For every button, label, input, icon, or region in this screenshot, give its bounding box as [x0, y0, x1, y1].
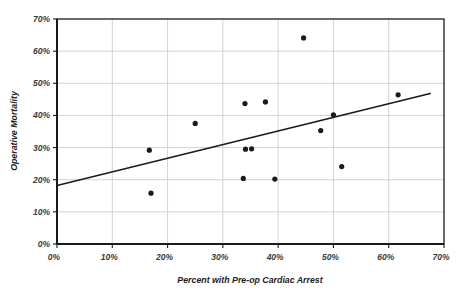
y-tick-label: 20% — [32, 175, 50, 185]
data-point — [396, 92, 401, 97]
data-point — [263, 99, 268, 104]
x-tick-label: 20% — [155, 252, 173, 262]
data-point — [249, 146, 254, 151]
grid-lines — [57, 19, 444, 244]
data-point — [242, 101, 247, 106]
trendline-path — [57, 94, 430, 186]
data-point — [147, 148, 152, 153]
data-point — [331, 112, 336, 117]
data-point — [241, 176, 246, 181]
x-tick-label: 40% — [266, 252, 284, 262]
x-tick-label: 30% — [211, 252, 228, 262]
x-axis-ticks: 0%10%20%30%40%50%60%70% — [48, 244, 450, 262]
y-tick-label: 70% — [33, 14, 50, 24]
y-tick-label: 30% — [33, 143, 50, 153]
data-point — [301, 35, 306, 40]
x-axis-title: Percent with Pre-op Cardiac Arrest — [177, 275, 323, 285]
trendline — [57, 94, 430, 186]
plot-canvas: 0%10%20%30%40%50%60%70% 0%10%20%30%40%50… — [0, 0, 463, 290]
x-tick-label: 70% — [432, 252, 449, 262]
y-tick-label: 10% — [33, 207, 50, 217]
y-tick-label: 0% — [38, 239, 51, 249]
y-axis-ticks: 0%10%20%30%40%50%60%70% — [32, 14, 57, 249]
data-point — [272, 176, 277, 181]
y-tick-label: 40% — [32, 110, 50, 120]
data-point — [318, 128, 323, 133]
scatter-chart: 0%10%20%30%40%50%60%70% 0%10%20%30%40%50… — [0, 0, 463, 290]
x-tick-label: 50% — [322, 252, 339, 262]
axes-border — [57, 19, 444, 244]
data-point — [339, 164, 344, 169]
plot-frame — [57, 19, 444, 244]
y-tick-label: 50% — [33, 78, 50, 88]
data-point — [148, 191, 153, 196]
x-tick-label: 60% — [377, 252, 394, 262]
data-point — [193, 121, 198, 126]
y-axis-title: Operative Mortality — [9, 90, 19, 171]
x-tick-label: 0% — [48, 252, 61, 262]
y-tick-label: 60% — [33, 46, 50, 56]
x-tick-label: 10% — [101, 252, 118, 262]
data-point — [243, 147, 248, 152]
